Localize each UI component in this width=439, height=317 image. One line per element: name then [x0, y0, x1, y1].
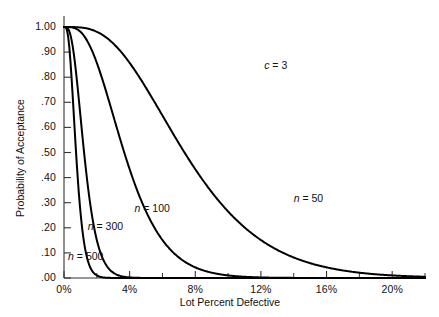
series-label-n-500: n = 500	[68, 250, 103, 262]
series-label-n-300: n = 300	[88, 220, 123, 232]
y-tick-label: .50	[22, 146, 56, 158]
oc-curve-n-50	[64, 27, 425, 277]
x-tick-label: 16%	[307, 283, 347, 295]
x-tick-label: 20%	[372, 283, 412, 295]
series-label-n-50: n = 50	[294, 192, 324, 204]
y-axis-title: Probability of Acceptance	[14, 88, 26, 228]
y-tick-label: .80	[22, 70, 56, 82]
y-tick-label: .00	[22, 271, 56, 283]
plot-canvas	[0, 0, 439, 317]
annotation-acceptance-number: c = 3	[264, 59, 287, 71]
oc-curve-n-100	[64, 27, 425, 278]
curve-paths	[64, 27, 425, 278]
y-tick-label: .90	[22, 45, 56, 57]
x-axis-title: Lot Percent Defective	[150, 296, 310, 308]
y-tick-label: .40	[22, 171, 56, 183]
axis-lines	[64, 16, 425, 278]
y-tick-label: .70	[22, 95, 56, 107]
oc-curve-n-300	[64, 27, 425, 278]
oc-curve-n-500	[64, 27, 425, 278]
series-label-n-100: n = 100	[135, 202, 170, 214]
x-tick-label: 0%	[44, 283, 84, 295]
oc-curve-figure: .00.10.20.30.40.50.60.70.80.901.00 0%4%8…	[0, 0, 439, 317]
y-tick-label: .20	[22, 221, 56, 233]
x-tick-label: 12%	[241, 283, 281, 295]
x-tick-label: 4%	[110, 283, 150, 295]
y-tick-label: .10	[22, 246, 56, 258]
y-tick-label: .30	[22, 196, 56, 208]
y-tick-label: 1.00	[22, 20, 56, 32]
x-tick-label: 8%	[175, 283, 215, 295]
tick-marks	[64, 27, 425, 278]
y-tick-label: .60	[22, 120, 56, 132]
